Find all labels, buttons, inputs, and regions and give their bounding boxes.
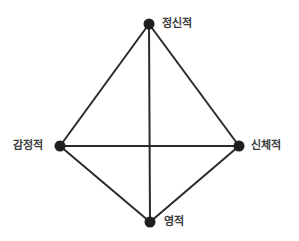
edge-mental-physical — [149, 24, 239, 146]
node-label-emotional: 감정적 — [13, 139, 43, 152]
edge-mental-emotional — [60, 24, 149, 146]
diagram-canvas: 정신적 감정적 신체적 영적 — [0, 0, 299, 241]
node-mental[interactable] — [144, 19, 155, 30]
edge-mental-spiritual-diagonal — [149, 24, 150, 222]
edge-emotional-spiritual — [60, 146, 150, 222]
node-label-mental: 정신적 — [162, 17, 192, 30]
node-emotional[interactable] — [55, 141, 66, 152]
node-label-physical: 신체적 — [251, 139, 281, 152]
diagram-graphic — [0, 0, 299, 241]
node-spiritual[interactable] — [145, 217, 156, 228]
node-label-spiritual: 영적 — [164, 215, 184, 228]
edge-physical-spiritual — [150, 146, 239, 222]
edge-group — [60, 24, 239, 222]
node-physical[interactable] — [234, 141, 245, 152]
